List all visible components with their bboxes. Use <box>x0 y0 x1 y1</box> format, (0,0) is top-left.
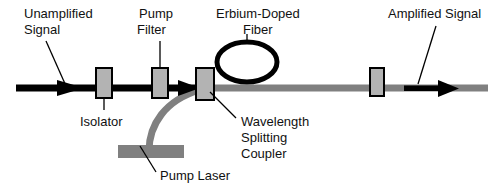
leader-unamplified-signal <box>46 41 66 86</box>
label-pump-laser: Pump Laser <box>160 168 231 183</box>
erbium-doped-fiber-loop <box>217 42 277 82</box>
figure-canvas: Unamplified Signal Pump Filter Erbium-Do… <box>0 0 498 186</box>
label-pump-filter-line2: Filter <box>137 22 167 37</box>
isolator-left-component[interactable] <box>96 68 112 98</box>
edfa-schematic: Unamplified Signal Pump Filter Erbium-Do… <box>0 0 498 186</box>
input-direction-arrow <box>57 80 84 96</box>
wavelength-splitting-coupler-component[interactable] <box>196 68 214 100</box>
output-direction-arrow <box>438 80 459 97</box>
label-erbium-doped-fiber-line2: Fiber <box>243 22 273 37</box>
leader-wavelength-splitting-coupler <box>210 92 236 118</box>
label-erbium-doped-fiber-line1: Erbium-Doped <box>216 6 300 21</box>
label-amplified-signal: Amplified Signal <box>388 6 481 21</box>
pump-fiber-curve <box>149 90 200 151</box>
label-isolator: Isolator <box>80 114 123 129</box>
label-unamplified-signal-line2: Signal <box>24 22 60 37</box>
label-pump-filter-line1: Pump <box>139 6 173 21</box>
label-unamplified-signal-line1: Unamplified <box>24 6 93 21</box>
label-wavelength-splitting-coupler-line2: Splitting <box>241 130 287 145</box>
label-wavelength-splitting-coupler-line3: Coupler <box>241 146 287 161</box>
leader-amplified-signal <box>418 26 436 84</box>
isolator-right-component[interactable] <box>370 68 384 96</box>
label-wavelength-splitting-coupler-line1: Wavelength <box>241 114 309 129</box>
output-arrow-shaft <box>404 86 442 92</box>
pump-filter-component[interactable] <box>152 68 168 98</box>
pump-laser-component[interactable] <box>118 145 184 158</box>
